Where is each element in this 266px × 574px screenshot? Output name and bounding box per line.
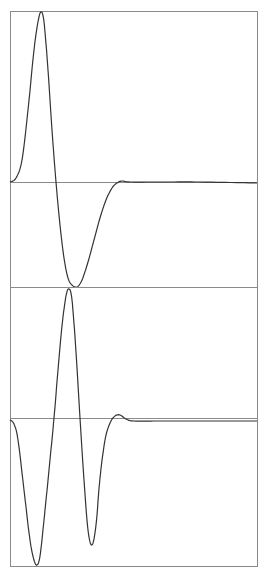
waveform-chart: [0, 0, 266, 574]
upper-panel-frame: [11, 12, 258, 288]
upper-waveform-curve: [10, 12, 257, 287]
lower-panel-frame: [11, 288, 258, 567]
lower-panel: [10, 288, 258, 567]
lower-waveform-curve: [10, 289, 257, 565]
upper-panel: [10, 12, 258, 288]
